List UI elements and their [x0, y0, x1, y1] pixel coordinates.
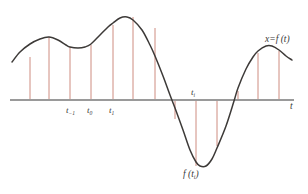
tick-label-t-zero: t0 [87, 106, 92, 116]
value-label-f-of-ti: f (ti) [183, 170, 199, 181]
curve-label-x-equals-f-of-t: x=f (t) [265, 35, 290, 45]
tick-label-t-one: t1 [109, 106, 114, 116]
function-plot-figure [0, 0, 308, 194]
figure-background [0, 0, 308, 194]
tick-label-t-i: ti [191, 88, 195, 98]
tick-label-t-minus-1: t−1 [66, 106, 75, 116]
axis-label-t: t [290, 102, 293, 112]
